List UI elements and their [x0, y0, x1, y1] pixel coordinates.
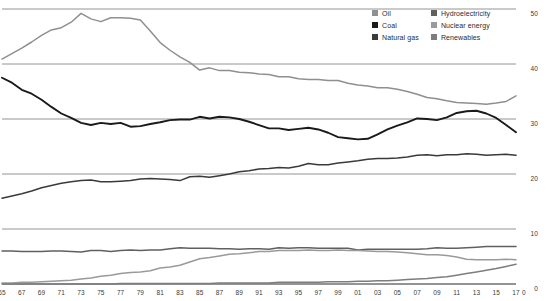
legend-swatch-nuclear-energy	[431, 22, 437, 28]
x-axis-origin-label: 0	[522, 289, 536, 296]
x-tick-label-99: 99	[331, 289, 345, 296]
y-tick-label-10: 10	[522, 230, 538, 237]
legend-swatch-natural-gas	[372, 34, 378, 40]
x-tick-label-05: 05	[390, 289, 404, 296]
x-tick-label-93: 93	[272, 289, 286, 296]
legend-label-natural-gas: Natural gas	[382, 34, 419, 41]
series-line-natural-gas	[2, 154, 516, 199]
legend-swatch-renewables	[431, 34, 437, 40]
legend-swatch-oil	[372, 10, 378, 16]
x-tick-label-13: 13	[469, 289, 483, 296]
y-tick-label-20: 20	[522, 175, 538, 182]
y-tick-label-30: 30	[522, 120, 538, 127]
x-tick-label-81: 81	[153, 289, 167, 296]
legend-column-left: Oil Coal Natural gas	[372, 8, 419, 42]
chart-plot-area	[0, 0, 547, 301]
legend-item-oil[interactable]: Oil	[372, 8, 419, 18]
x-tick-label-07: 07	[410, 289, 424, 296]
series-lines-group	[2, 13, 516, 284]
x-tick-label-11: 11	[450, 289, 464, 296]
legend-label-hydroelectricity: Hydroelectricity	[441, 10, 490, 17]
x-tick-label-85: 85	[193, 289, 207, 296]
x-tick-label-01: 01	[351, 289, 365, 296]
gridlines-group	[2, 9, 516, 284]
x-tick-label-87: 87	[212, 289, 226, 296]
x-tick-label-73: 73	[74, 289, 88, 296]
legend-item-renewables[interactable]: Renewables	[431, 32, 490, 42]
x-tick-label-89: 89	[232, 289, 246, 296]
legend-swatch-hydroelectricity	[431, 10, 437, 16]
x-tick-label-67: 67	[15, 289, 29, 296]
x-tick-label-91: 91	[252, 289, 266, 296]
legend-item-natural-gas[interactable]: Natural gas	[372, 32, 419, 42]
x-tick-label-83: 83	[173, 289, 187, 296]
legend-label-renewables: Renewables	[441, 34, 481, 41]
x-axis-line-group	[2, 9, 516, 284]
series-line-renewables	[2, 264, 516, 284]
legend-item-hydroelectricity[interactable]: Hydroelectricity	[431, 8, 490, 18]
x-tick-label-69: 69	[35, 289, 49, 296]
series-line-coal	[2, 78, 516, 140]
x-tick-label-79: 79	[133, 289, 147, 296]
legend-label-nuclear-energy: Nuclear energy	[441, 22, 490, 29]
legend-swatch-coal	[372, 22, 378, 28]
x-tick-label-77: 77	[114, 289, 128, 296]
legend-label-coal: Coal	[382, 22, 397, 29]
x-tick-label-03: 03	[371, 289, 385, 296]
x-tick-label-09: 09	[430, 289, 444, 296]
legend-column-right: Hydroelectricity Nuclear energy Renewabl…	[431, 8, 490, 42]
x-tick-label-71: 71	[54, 289, 68, 296]
x-tick-label-95: 95	[292, 289, 306, 296]
legend-label-oil: Oil	[382, 10, 391, 17]
x-tick-label-97: 97	[311, 289, 325, 296]
chart-legend: Oil Coal Natural gas Hydroelectricity Nu…	[372, 8, 542, 42]
x-tick-label-17: 17	[509, 289, 523, 296]
x-tick-label-75: 75	[94, 289, 108, 296]
x-tick-label-65: 65	[0, 289, 9, 296]
y-tick-label-40: 40	[522, 65, 538, 72]
energy-mix-line-chart: 50403020100 6567697173757779818385878991…	[0, 0, 547, 301]
x-tick-label-15: 15	[489, 289, 503, 296]
legend-item-nuclear-energy[interactable]: Nuclear energy	[431, 20, 490, 30]
legend-item-coal[interactable]: Coal	[372, 20, 419, 30]
